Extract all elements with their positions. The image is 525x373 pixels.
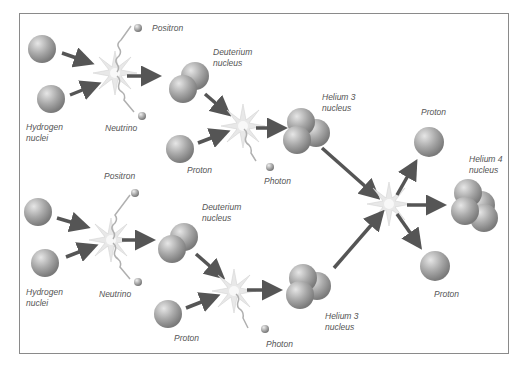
hydrogen-nucleus-4 [31, 249, 59, 277]
label-helium3-bottom: Helium 3nucleus [325, 311, 359, 333]
label-neutrino-bottom: Neutrino [99, 289, 131, 300]
label-helium4: Helium 4nucleus [469, 154, 503, 176]
label-proton-out-top: Proton [421, 107, 446, 118]
label-photon-bottom: Photon [266, 339, 293, 350]
label-positron-bottom: Positron [104, 171, 135, 182]
label-proton-bottom: Proton [174, 333, 199, 344]
label-proton-out-bottom: Proton [434, 289, 459, 300]
fusion-flash [93, 51, 137, 95]
hydrogen-nucleus-2 [37, 85, 65, 113]
hydrogen-nucleus-1 [28, 35, 56, 63]
helium3-nucleus-bottom [286, 264, 331, 309]
label-photon-top: Photon [264, 176, 291, 187]
label-neutrino-top: Neutrino [105, 123, 137, 134]
deuterium-nucleus-top [169, 62, 209, 103]
label-proton-top: Proton [187, 165, 212, 176]
label-helium3-top: Helium 3nucleus [322, 92, 356, 114]
photon-particle [266, 163, 274, 171]
deuterium-nucleus-bottom [158, 223, 198, 263]
positron-particle [134, 24, 142, 32]
hydrogen-nucleus-3 [24, 198, 52, 226]
label-deuterium-bottom: Deuteriumnucleus [202, 202, 241, 224]
neutrino-particle [138, 112, 146, 120]
label-deuterium-top: Deuteriumnucleus [213, 47, 252, 69]
helium4-nucleus [451, 179, 498, 232]
label-hydrogen-bottom: Hydrogennuclei [26, 287, 63, 309]
arrow [62, 53, 88, 62]
proton-out-top [414, 127, 444, 157]
reaction-diagram [0, 0, 525, 373]
proton-top [166, 135, 194, 163]
proton-out-bottom [420, 251, 450, 281]
proton-bottom [154, 300, 182, 328]
label-positron-top: Positron [152, 23, 183, 34]
arrow [70, 85, 95, 95]
label-hydrogen-top: Hydrogennuclei [26, 122, 63, 144]
